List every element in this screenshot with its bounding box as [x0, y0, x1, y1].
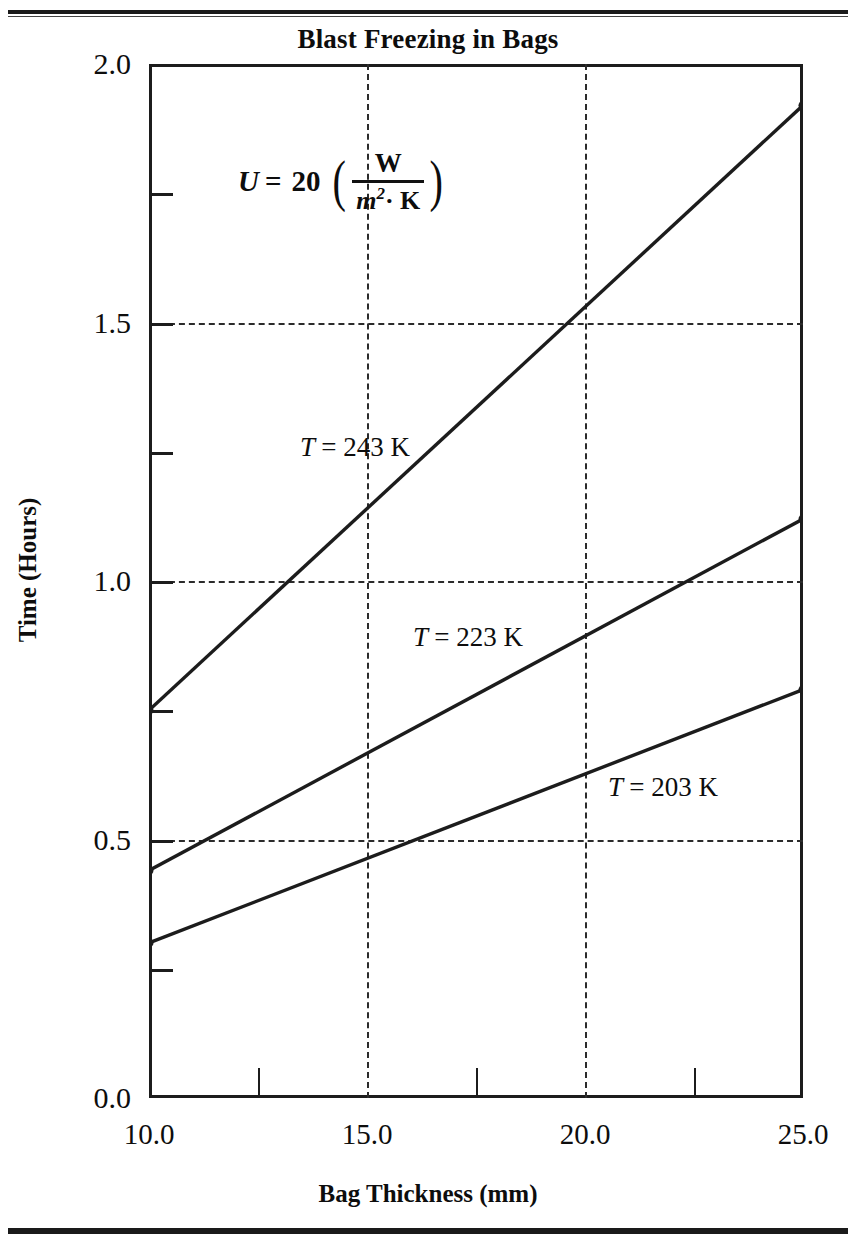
y-axis-tick-label: 0.0 [21, 1081, 131, 1115]
annotation-close-paren: ) [430, 159, 443, 204]
x-axis-tick-label: 10.0 [79, 1118, 219, 1151]
y-axis-major-tick [149, 323, 173, 326]
x-axis-minor-tick [694, 1068, 696, 1098]
series-label-223K: T = 223 K [413, 622, 523, 653]
y-axis-major-tick [149, 581, 173, 584]
annotation-fraction: W m2· K [352, 148, 424, 216]
y-axis-minor-tick [149, 969, 173, 972]
y-axis-minor-tick [149, 193, 173, 196]
x-axis-minor-tick [476, 1068, 478, 1098]
y-axis-major-tick [149, 840, 173, 843]
y-axis-tick-label: 0.5 [21, 823, 131, 857]
annotation-denominator: m2· K [352, 183, 424, 216]
y-axis-tick-label: 1.5 [21, 306, 131, 340]
annotation-lhs: U [238, 165, 259, 198]
y-axis-title: Time (Hours) [14, 420, 42, 720]
x-axis-tick-label: 15.0 [297, 1118, 437, 1151]
x-axis-tick-label: 20.0 [515, 1118, 655, 1151]
annotation-denominator-exponent: 2 [376, 184, 385, 203]
x-axis-tick-label: 25.0 [733, 1118, 856, 1151]
u-value-annotation: U = 20 ( W m2· K ) [238, 148, 446, 216]
series-label-value: = 203 K [629, 772, 718, 802]
annotation-numerator: W [367, 148, 410, 180]
x-axis-title: Bag Thickness (mm) [0, 1180, 856, 1208]
series-label-variable: T [608, 772, 629, 802]
annotation-equals: = [265, 165, 282, 198]
series-label-variable: T [413, 622, 434, 652]
y-axis-minor-tick [149, 452, 173, 455]
annotation-value: 20 [291, 165, 320, 198]
annotation-open-paren: ( [333, 159, 346, 204]
series-label-variable: T [300, 432, 321, 462]
series-label-203K: T = 203 K [608, 772, 718, 803]
y-axis-tick-label: 2.0 [21, 47, 131, 81]
annotation-denominator-unit: · K [385, 186, 420, 215]
series-label-value: = 243 K [321, 432, 410, 462]
x-axis-minor-tick [258, 1068, 260, 1098]
series-label-value: = 223 K [434, 622, 523, 652]
series-label-243K: T = 243 K [300, 432, 410, 463]
curve-layer [149, 64, 803, 1098]
y-axis-minor-tick [149, 710, 173, 713]
chart-figure: Blast Freezing in Bags 0.00.51.01.52.0 1… [0, 0, 856, 1248]
annotation-denominator-base: m [356, 186, 376, 215]
